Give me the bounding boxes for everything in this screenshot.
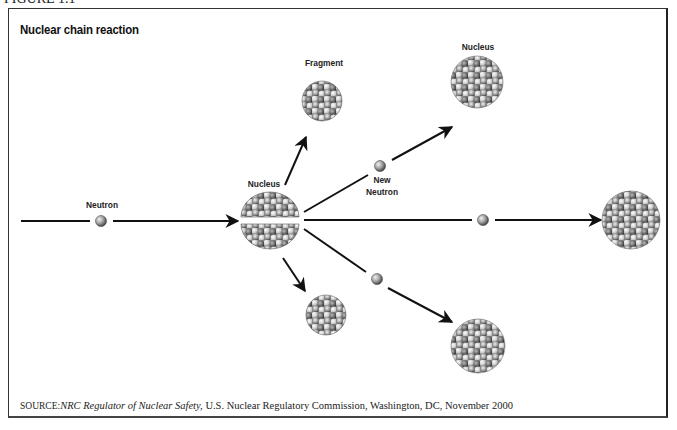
source-details: U.S. Nuclear Regulatory Commission, Wash… [203,400,513,411]
fragment-top-icon [302,81,342,121]
fragment-label: Fragment [299,57,348,68]
new-neutron-label-line1: New [363,174,402,185]
neutron-icon [96,216,107,227]
source-publication: NRC Regulator of Nuclear Safety, [60,400,203,411]
middle-neutron-icon [478,215,489,226]
source-prefix: SOURCE: [20,401,60,411]
nucleus-top-label: Nucleus [453,41,502,52]
nucleus-split-icon [241,192,299,249]
nucleus-bottom-icon [451,319,505,373]
source-citation: SOURCE:NRC Regulator of Nuclear Safety, … [20,400,513,411]
new-neutron-label-line2: Neutron [359,186,405,197]
new-neutron-icon [375,161,386,172]
neutron-label: Neutron [83,199,122,210]
nucleus-center-label: Nucleus [239,178,288,189]
nucleus-top-icon [451,56,503,108]
fragment-bottom-icon [306,295,346,335]
nucleus-right-icon [602,191,660,249]
lower-neutron-icon [372,274,383,285]
